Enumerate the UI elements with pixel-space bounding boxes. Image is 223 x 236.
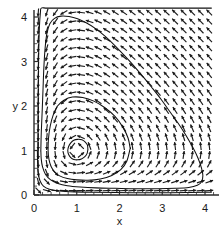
y-tick-label: 0 [21,189,27,201]
x-tick-label: 4 [202,202,208,214]
y-tick-label: 3 [21,56,27,68]
x-tick-label: 3 [159,202,165,214]
x-tick-label: 0 [31,202,37,214]
y-tick-label: 1 [21,145,27,157]
phase-portrait-canvas: 0123401234 x y [0,0,223,236]
y-tick-label: 4 [21,11,27,23]
x-tick-label: 2 [116,202,122,214]
x-tick-label: 1 [74,202,80,214]
y-axis-title: y [13,100,19,112]
phase-portrait-figure: 0123401234 x y [0,0,223,236]
x-axis-title: x [117,215,123,227]
y-tick-label: 2 [21,100,27,112]
